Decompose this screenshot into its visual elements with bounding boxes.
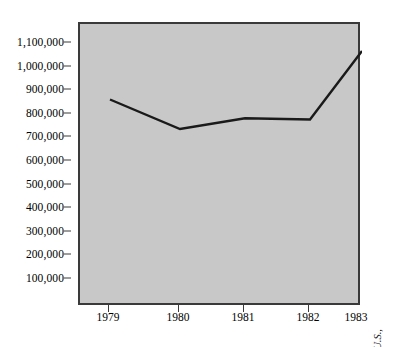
chart-figure: 1,100,000 1,000,000 900,000 800,000 700,… xyxy=(0,0,395,347)
y-tick-mark xyxy=(64,112,71,113)
x-tick-label: 1980 xyxy=(167,311,190,323)
x-tick-label: 1983 xyxy=(345,311,368,323)
y-tick-label: 900,000 xyxy=(26,83,64,95)
y-tick-label: 700,000 xyxy=(26,130,64,142)
y-tick-label: 300,000 xyxy=(26,225,64,237)
plot-area xyxy=(78,22,360,305)
source-note: Source: Statistical Abstract of the U.S.… xyxy=(372,329,383,347)
line-path xyxy=(110,51,362,129)
y-tick-mark xyxy=(64,136,71,137)
y-tick-label: 600,000 xyxy=(26,154,64,166)
y-tick-mark xyxy=(64,230,71,231)
y-tick-mark xyxy=(64,207,71,208)
y-axis: 1,100,000 1,000,000 900,000 800,000 700,… xyxy=(0,0,74,347)
x-tick-label: 1979 xyxy=(97,311,120,323)
y-tick-mark xyxy=(64,65,71,66)
y-tick-label: 500,000 xyxy=(26,178,64,190)
y-tick-mark xyxy=(64,278,71,279)
y-tick-label: 200,000 xyxy=(26,248,64,260)
x-tick-label: 1982 xyxy=(297,311,320,323)
y-tick-label: 1,100,000 xyxy=(17,36,64,48)
y-tick-label: 1,000,000 xyxy=(17,60,64,72)
y-tick-mark xyxy=(64,160,71,161)
y-tick-label: 800,000 xyxy=(26,107,64,119)
y-tick-label: 100,000 xyxy=(26,272,64,284)
y-tick-label: 400,000 xyxy=(26,201,64,213)
y-tick-mark xyxy=(64,183,71,184)
source-title: Statistical Abstract of the U.S., xyxy=(372,329,383,347)
y-tick-mark xyxy=(64,254,71,255)
y-tick-mark xyxy=(64,89,71,90)
x-tick-label: 1981 xyxy=(232,311,255,323)
data-line-series xyxy=(80,24,362,307)
x-axis-labels: 1979 1980 1981 1982 1983 xyxy=(0,311,395,335)
y-tick-mark xyxy=(64,42,71,43)
